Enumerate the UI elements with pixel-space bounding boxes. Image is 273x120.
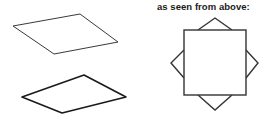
perspective-views-panel (0, 0, 140, 120)
right-flap-triangle (246, 50, 258, 78)
perspective-views-svg (0, 0, 140, 120)
left-flap-triangle (171, 50, 184, 78)
bottom-flap-triangle (198, 95, 232, 110)
top-down-view-panel: as seen from above: (140, 0, 273, 120)
upper-parallelogram (13, 14, 118, 54)
center-square (184, 30, 246, 95)
top-flap-triangle (198, 18, 232, 30)
lower-parallelogram (22, 75, 126, 113)
top-down-view-svg (140, 0, 273, 120)
figure-root: as seen from above: (0, 0, 273, 120)
